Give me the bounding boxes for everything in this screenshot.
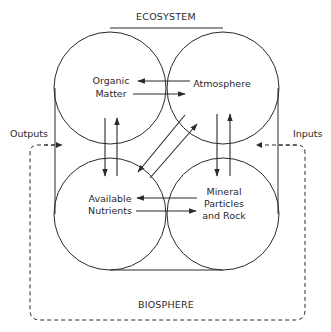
node-mineral-particles-line2: Particles xyxy=(204,198,244,209)
ecosystem-label: ECOSYSTEM xyxy=(136,11,196,22)
arrow-nutrients-to-atmosphere xyxy=(150,124,197,178)
ecosystem-diagram: ECOSYSTEM BIOSPHERE Outputs Inputs Organ… xyxy=(0,0,331,332)
inputs-label: Inputs xyxy=(293,128,323,139)
node-organic-matter-line2: Matter xyxy=(95,88,126,99)
ecosystem-boundary xyxy=(55,28,278,270)
arrow-atmosphere-to-nutrients xyxy=(138,115,185,172)
node-mineral-particles-line1: Mineral xyxy=(206,186,241,197)
biosphere-boundary xyxy=(30,145,305,320)
node-organic-matter-line1: Organic xyxy=(93,75,130,86)
inputs-arrowhead xyxy=(256,142,262,148)
node-available-nutrients-line2: Nutrients xyxy=(88,205,132,216)
node-atmosphere: Atmosphere xyxy=(193,78,251,89)
outputs-label: Outputs xyxy=(10,128,48,139)
node-mineral-particles-line3: and Rock xyxy=(202,210,246,221)
outputs-arrowhead xyxy=(56,142,62,148)
node-available-nutrients-line1: Available xyxy=(88,193,131,204)
biosphere-label: BIOSPHERE xyxy=(138,299,194,310)
